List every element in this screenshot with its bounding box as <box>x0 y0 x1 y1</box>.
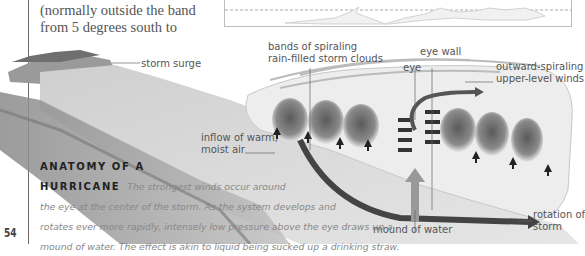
caption-line: The strongest winds occur around <box>127 181 285 192</box>
label-inflow: inflow of warm, moist air <box>201 132 278 156</box>
label-eye: eye <box>403 62 421 74</box>
label-eye-wall: eye wall <box>420 46 461 58</box>
caption-title-2: HURRICANE <box>40 181 120 192</box>
caption-title: ANATOMY OF A <box>40 157 520 177</box>
caption-line: rotates ever more rapidly, intensely low… <box>40 217 520 237</box>
label-storm-surge: storm surge <box>141 58 201 70</box>
label-rotation: rotation of storm <box>533 209 585 233</box>
figure-caption: ANATOMY OF A HURRICANE The strongest win… <box>40 157 520 256</box>
caption-line: the eye at the center of the storm. As t… <box>40 197 520 217</box>
page-number: 54 <box>4 226 17 240</box>
label-bands: bands of spiraling rain-filled storm clo… <box>268 41 383 65</box>
label-outward-winds: outward-spiraling upper-level winds <box>496 61 584 85</box>
caption-line: mound of water. The effect is akin to li… <box>40 237 520 256</box>
